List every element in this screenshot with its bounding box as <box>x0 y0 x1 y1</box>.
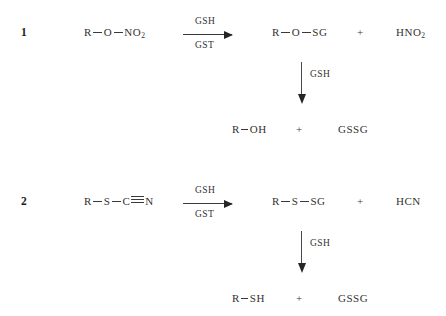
reaction-1-arrow-label-below: GST <box>195 41 214 51</box>
reaction-1-product-conjugate: ROSG <box>272 27 327 38</box>
bond-dash <box>112 201 121 202</box>
product-2c-sh-group: SH <box>250 292 265 304</box>
reactant-1-nitro-subscript: 2 <box>141 31 145 40</box>
reaction-2-second-step-arrow <box>301 231 302 264</box>
product-2a-r-group: R <box>272 195 280 207</box>
reactant-2-c-atom: C <box>122 195 130 207</box>
reactant-1-o-atom: O <box>104 26 112 38</box>
reactant-2-n-atom: N <box>145 195 153 207</box>
bond-dash <box>281 201 290 202</box>
reaction-2-final-product-thiol: RSH <box>232 293 265 304</box>
reactant-1-nitro-group: NO <box>124 26 141 38</box>
reaction-1-second-step-arrow-label: GSH <box>310 70 330 80</box>
reactant-2-r-group: R <box>84 195 92 207</box>
bond-dash <box>302 32 311 33</box>
reaction-2-final-product-gssg: GSSG <box>338 293 368 304</box>
reaction-2-plus-sign: + <box>357 196 364 207</box>
reaction-2-product-hydrogen-cyanide: HCN <box>396 196 421 207</box>
bond-dash <box>114 32 123 33</box>
product-1b-subscript: 2 <box>421 31 425 40</box>
reaction-1-second-step-arrow <box>301 62 302 95</box>
reaction-2-reactant: RSCN <box>84 196 154 207</box>
product-1c-r-group: R <box>232 123 240 135</box>
reaction-1-arrow <box>183 34 232 35</box>
reaction-2-arrow <box>183 203 232 204</box>
reaction-1-final-product-gssg: GSSG <box>338 124 368 135</box>
reaction-2-product-conjugate: RSSG <box>272 196 326 207</box>
reaction-2-arrow-label-below: GST <box>195 210 214 220</box>
bond-dash <box>300 201 309 202</box>
bond-dash <box>281 32 290 33</box>
bond-dash <box>241 129 248 130</box>
product-1a-r-group: R <box>272 26 280 38</box>
reaction-1-plus-sign: + <box>357 27 364 38</box>
product-1a-o-atom: O <box>292 26 300 38</box>
reaction-number-1: 1 <box>21 27 27 39</box>
bond-dash <box>241 298 248 299</box>
product-2a-s-atom: S <box>292 195 299 207</box>
reaction-2-second-step-arrow-label: GSH <box>310 239 330 249</box>
reaction-1-second-step-plus-sign: + <box>296 124 303 135</box>
triple-bond <box>131 196 144 204</box>
product-2a-sg-group: SG <box>310 195 325 207</box>
reaction-1-product-nitrous-acid: HNO2 <box>396 27 425 39</box>
reaction-1-arrow-label-above: GSH <box>195 17 215 27</box>
reaction-scheme: 1 RONO2 GSH GST ROSG + HNO2 GSH ROH + GS… <box>0 0 446 316</box>
reaction-2-second-step-plus-sign: + <box>296 293 303 304</box>
reaction-number-2: 2 <box>21 196 27 208</box>
product-1a-sg-group: SG <box>312 26 327 38</box>
product-1b-label: HNO <box>396 26 421 38</box>
reaction-2-arrow-label-above: GSH <box>195 186 215 196</box>
product-1c-oh-group: OH <box>250 123 267 135</box>
bond-dash <box>93 32 102 33</box>
product-2c-r-group: R <box>232 292 240 304</box>
reactant-2-s-atom: S <box>104 195 111 207</box>
reaction-1-final-product-alcohol: ROH <box>232 124 267 135</box>
reactant-1-r-group: R <box>84 26 92 38</box>
reaction-1-reactant: RONO2 <box>84 27 145 39</box>
bond-dash <box>93 201 102 202</box>
